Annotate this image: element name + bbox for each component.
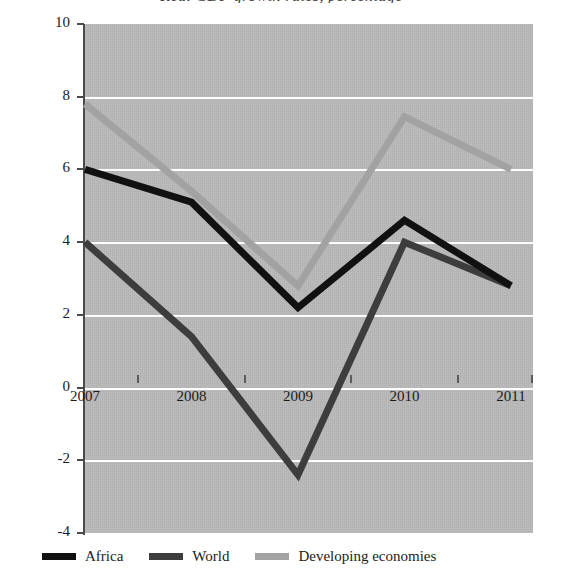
- gridline: [85, 169, 533, 171]
- chart-legend: AfricaWorldDeveloping economies: [42, 546, 462, 566]
- legend-label: World: [192, 548, 229, 565]
- x-tick-label: 2011: [466, 388, 556, 405]
- y-tick-mark: [77, 96, 84, 98]
- y-tick-label: 4: [10, 232, 70, 249]
- gridline: [85, 97, 533, 99]
- x-tick-mark: [244, 375, 246, 383]
- chart-title: Real GDP growth rates, percentage: [0, 0, 563, 3]
- x-tick-label: 2008: [147, 388, 237, 405]
- gridline: [85, 242, 533, 244]
- x-tick-mark: [350, 375, 352, 383]
- x-tick-label: 2009: [253, 388, 343, 405]
- x-tick-mark: [457, 375, 459, 383]
- y-tick-label: -4: [10, 523, 70, 540]
- y-tick-label: 8: [10, 87, 70, 104]
- y-tick-label: 2: [10, 305, 70, 322]
- y-tick-label: 10: [10, 14, 70, 31]
- y-tick-mark: [77, 241, 84, 243]
- gridline: [85, 315, 533, 317]
- legend-item-africa[interactable]: Africa: [42, 548, 123, 565]
- legend-swatch-icon: [255, 553, 289, 560]
- legend-item-developing-economies[interactable]: Developing economies: [255, 548, 436, 565]
- y-tick-mark: [77, 314, 84, 316]
- legend-label: Developing economies: [298, 548, 436, 565]
- gridline: [85, 460, 533, 462]
- x-tick-mark: [531, 375, 533, 383]
- legend-label: Africa: [85, 548, 123, 565]
- y-tick-mark: [77, 168, 84, 170]
- legend-swatch-icon: [149, 553, 183, 560]
- gridline: [85, 533, 533, 535]
- y-tick-label: -2: [10, 450, 70, 467]
- plot-background-texture: [85, 24, 533, 533]
- y-tick-mark: [77, 459, 84, 461]
- legend-swatch-icon: [42, 553, 76, 560]
- x-tick-mark: [137, 375, 139, 383]
- x-tick-label: 2010: [360, 388, 450, 405]
- y-tick-label: 6: [10, 159, 70, 176]
- plot-area: [85, 24, 533, 533]
- y-tick-mark: [77, 23, 84, 25]
- x-tick-label: 2007: [40, 388, 130, 405]
- y-tick-mark: [77, 532, 84, 534]
- legend-item-world[interactable]: World: [149, 548, 229, 565]
- chart-figure: Real GDP growth rates, percentage 108642…: [0, 0, 563, 569]
